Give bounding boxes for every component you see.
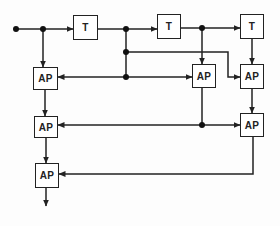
delay-block-t3: T [240, 14, 264, 39]
connection-lines [0, 0, 280, 226]
allpass-block-ap2: AP [192, 64, 216, 88]
block-label: T [249, 21, 255, 32]
block-label: AP [245, 120, 260, 131]
junction-node [123, 26, 129, 32]
ap5-to-ap6-line [59, 137, 253, 174]
diagram-canvas: T T T AP AP AP AP AP AP [0, 0, 280, 226]
allpass-block-ap1: AP [33, 67, 58, 90]
junction-node [123, 74, 129, 80]
block-label: AP [197, 71, 212, 82]
delay-block-t2: T [157, 14, 181, 39]
allpass-block-ap3: AP [240, 64, 264, 89]
block-label: T [166, 21, 172, 32]
t1-to-ap3-line [126, 52, 240, 77]
input-node [13, 26, 19, 32]
delay-block-t1: T [73, 15, 98, 40]
allpass-block-ap5: AP [240, 113, 264, 137]
junction-node [199, 122, 205, 128]
junction-node [123, 49, 129, 55]
junction-node [40, 26, 46, 32]
block-label: AP [39, 122, 54, 133]
block-label: T [82, 22, 88, 33]
allpass-block-ap4: AP [34, 116, 58, 138]
junction-node [199, 25, 205, 31]
allpass-block-ap6: AP [35, 163, 59, 188]
block-label: AP [38, 73, 53, 84]
block-label: AP [40, 170, 55, 181]
block-label: AP [245, 71, 260, 82]
